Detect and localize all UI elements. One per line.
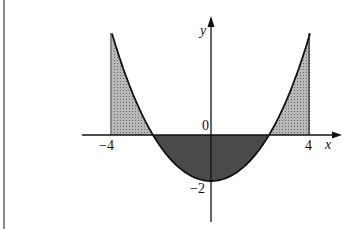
x-axis-arrow-icon <box>332 132 342 139</box>
x-axis-label: x <box>325 138 331 152</box>
integral-area-diagram <box>0 0 359 229</box>
tick-label-x-neg4: −4 <box>99 139 114 153</box>
y-axis-label: y <box>200 24 206 38</box>
positive-region-left <box>112 33 153 135</box>
positive-region-right <box>269 33 310 135</box>
origin-label: 0 <box>202 119 209 133</box>
tick-label-x-4: 4 <box>305 139 312 153</box>
tick-label-y-neg2: −2 <box>190 182 205 196</box>
y-axis-arrow-icon <box>208 16 215 27</box>
